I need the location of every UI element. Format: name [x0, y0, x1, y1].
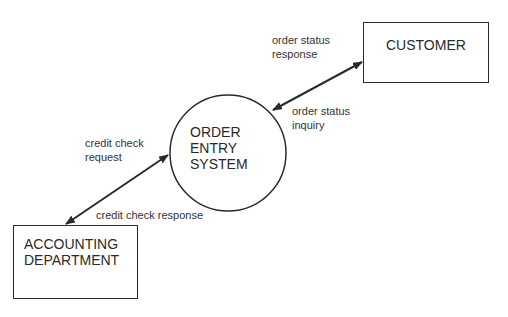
accounting-entity-label-line2: DEPARTMENT	[24, 252, 119, 268]
credit-check-request-label-line1: credit check	[85, 136, 144, 150]
order-status-inquiry-label-line2: inquiry	[292, 118, 324, 132]
process-label-line1: ORDER	[190, 124, 241, 140]
process-label-line3: SYSTEM	[190, 156, 248, 172]
credit-check-request-label-line2: request	[85, 150, 122, 164]
process-label-line2: ENTRY	[190, 140, 237, 156]
order-status-inquiry-label-line1: order status	[292, 104, 350, 118]
accounting-entity-label-line1: ACCOUNTING	[24, 236, 118, 252]
order-status-response-label-line2: response	[272, 47, 317, 61]
customer-entity-label: CUSTOMER	[386, 37, 466, 53]
order-status-response-label-line1: order status	[272, 33, 330, 47]
credit-check-response-label: credit check response	[96, 208, 203, 222]
customer-flow-arrow	[273, 62, 362, 110]
